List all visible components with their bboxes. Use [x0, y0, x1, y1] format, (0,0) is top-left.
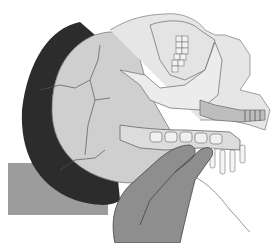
- medical-illustration: [0, 0, 279, 243]
- illustration-svg: [0, 0, 279, 243]
